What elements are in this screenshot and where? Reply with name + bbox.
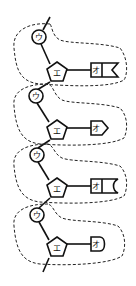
pentagon-label: エ (53, 69, 61, 78)
nucleotide-unit-1: ウ エ オ (14, 24, 127, 86)
nucleotide-chain-diagram: ウ エ オ ウ エ オ ウ エ オ ウ エ オ (0, 0, 136, 286)
base-label: オ (92, 182, 100, 191)
circle-label: ウ (32, 92, 40, 101)
nucleotide-unit-3: ウ エ オ (14, 144, 127, 203)
base-label: オ (92, 240, 100, 249)
circle-label: ウ (33, 211, 41, 220)
circle-label: ウ (35, 33, 43, 42)
circle-label: ウ (33, 151, 41, 160)
pentagon-label: エ (53, 185, 61, 194)
base-label: オ (92, 124, 100, 133)
pentagon-label: エ (53, 127, 61, 136)
nucleotide-unit-2: ウ エ オ (14, 84, 127, 145)
nucleotide-unit-4: ウ エ オ (14, 204, 125, 265)
pentagon-label: エ (53, 244, 61, 253)
base-label: オ (92, 66, 100, 75)
